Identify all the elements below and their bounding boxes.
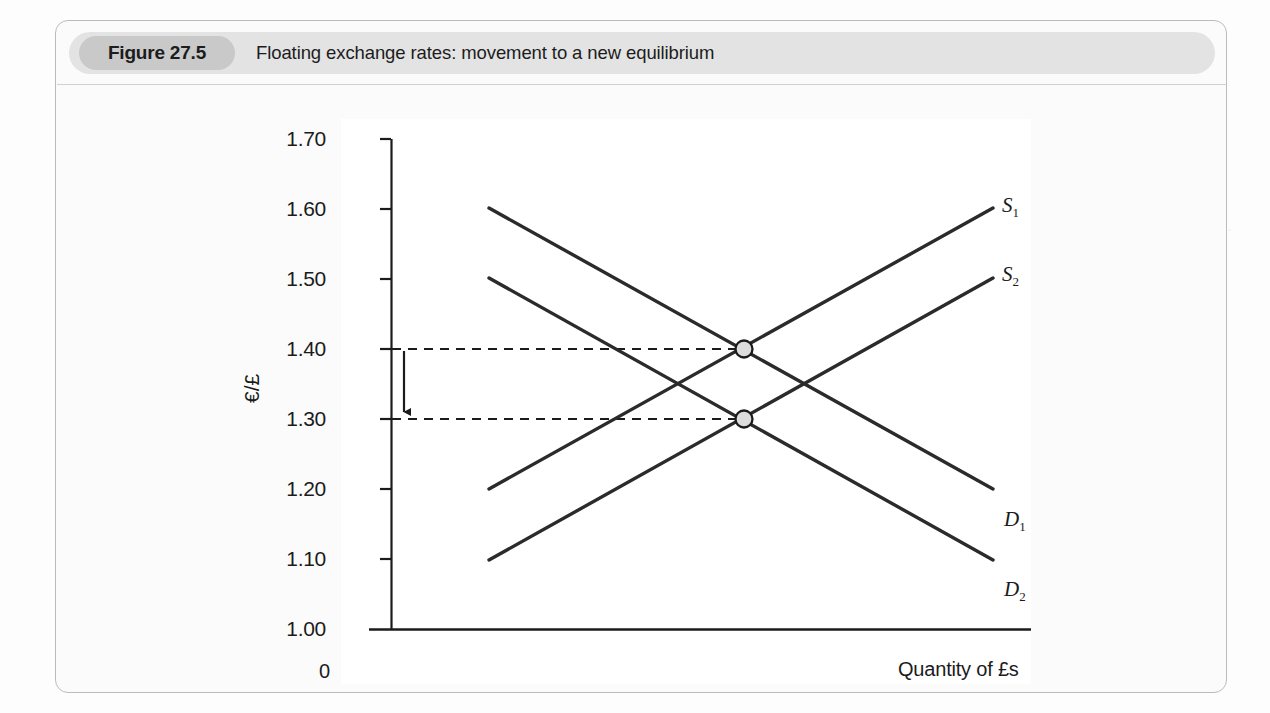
figure-number-badge: Figure 27.5 — [79, 36, 235, 70]
chart-area: 1.70 1.60 1.50 1.40 1.30 1.20 1.10 1.00 … — [56, 85, 1228, 694]
figure-title: Floating exchange rates: movement to a n… — [256, 32, 714, 74]
figure-frame: Figure 27.5 Floating exchange rates: mov… — [55, 20, 1227, 693]
page-background: A fall in the exchange rate of the pound… — [0, 0, 1270, 713]
figure-header: Figure 27.5 Floating exchange rates: mov… — [69, 32, 1215, 74]
equilibrium-marker-initial — [736, 341, 753, 358]
equilibrium-marker-new — [736, 411, 753, 428]
figure-number-label: Figure 27.5 — [108, 42, 206, 64]
plot-graphics — [56, 85, 1228, 694]
